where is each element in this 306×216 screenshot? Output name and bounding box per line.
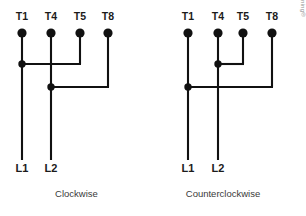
terminal-label-t4: T4 (205, 10, 231, 22)
terminal-label-t5: T5 (230, 10, 256, 22)
copyright-notice: Copyright © 2015 Cengage Learning® (300, 0, 306, 38)
junction-dot-lower (184, 83, 191, 90)
terminal-label-t5: T5 (67, 10, 93, 22)
junction-dot-upper (214, 60, 221, 67)
caption-counterclockwise: Counterclockwise (153, 188, 293, 200)
terminal-dot-t8 (103, 28, 112, 37)
terminal-dot-t1 (183, 28, 192, 37)
terminal-label-t1: T1 (175, 10, 201, 22)
clockwise-schematic (0, 0, 153, 216)
terminal-label-t4: T4 (38, 10, 64, 22)
junction-dot-upper (18, 60, 25, 67)
terminal-dot-t4 (46, 28, 55, 37)
clockwise-nodes (17, 28, 112, 90)
terminal-dot-t4 (213, 28, 222, 37)
figure-canvas: T1 T4 T5 T8 L1 L2 Clockwise (0, 0, 306, 216)
terminal-dot-t1 (17, 28, 26, 37)
terminal-dot-t5 (75, 28, 84, 37)
wiring-diagram-counterclockwise: T1 T4 T5 T8 L1 L2 Counterclockwise (153, 0, 306, 216)
supply-label-l1: L1 (175, 162, 201, 174)
counterclockwise-nodes (183, 28, 276, 90)
caption-clockwise: Clockwise (0, 188, 153, 200)
supply-label-l1: L1 (9, 162, 35, 174)
terminal-label-t1: T1 (9, 10, 35, 22)
supply-label-l2: L2 (38, 162, 64, 174)
terminal-label-t8: T8 (95, 10, 121, 22)
supply-label-l2: L2 (205, 162, 231, 174)
counterclockwise-schematic (153, 0, 306, 216)
terminal-dot-t5 (238, 28, 247, 37)
wiring-diagram-clockwise: T1 T4 T5 T8 L1 L2 Clockwise (0, 0, 153, 216)
terminal-label-t8: T8 (259, 10, 285, 22)
junction-dot-lower (47, 83, 54, 90)
terminal-dot-t8 (267, 28, 276, 37)
